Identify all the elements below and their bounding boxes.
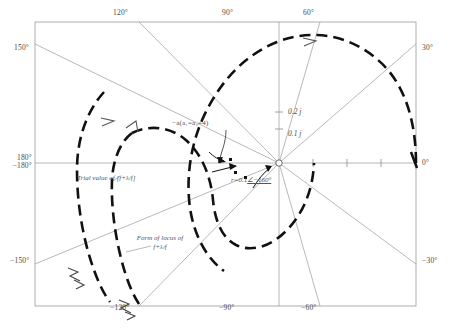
angle-label-minus-180: −180° — [2, 162, 32, 170]
minus-a-annotation: −a(a₁=a₂=4) — [172, 119, 208, 127]
locus-form-line2: f+λ/f — [118, 243, 202, 252]
angle-label-minus-60: −60° — [301, 303, 317, 312]
trial-value-annotation: Trial value of [f+λ/f] — [77, 174, 136, 182]
locus-form-line1: Form of locus of — [118, 234, 202, 243]
inner-left-branch — [112, 133, 139, 304]
inner-locus-curve — [132, 128, 314, 248]
angle-label-90: 90° — [222, 8, 233, 17]
polar-locus-figure: 120° 90° 60° 30° 0° −30° 150° −150° 180°… — [0, 0, 466, 328]
angle-label-minus-90: −90° — [219, 303, 235, 312]
angle-label-150: 150° — [14, 43, 29, 52]
r-value-annotation: r=0.1∠−160° — [231, 176, 271, 184]
locus-form-annotation: Form of locus of f+λ/f — [118, 234, 202, 252]
angle-label-30: 30° — [422, 43, 433, 52]
radial-value-0p2j: 0.2 j — [288, 107, 301, 116]
angle-label-minus-30: −30° — [422, 256, 438, 265]
angle-label-minus-150: −150° — [10, 256, 29, 265]
left-outer-branch — [77, 92, 110, 302]
angle-label-0: 0° — [422, 158, 429, 167]
r-value-angle: ∠−160° — [247, 176, 271, 184]
outer-locus-arrowheads — [101, 38, 316, 126]
outer-locus-curve — [189, 35, 416, 271]
diagram-canvas — [0, 0, 466, 328]
angle-label-180-group: 180° −180° — [2, 154, 32, 171]
direction-arrow-markers — [68, 268, 135, 320]
r-value-magnitude: r=0.1 — [231, 176, 247, 184]
origin-marker — [276, 160, 282, 166]
angle-label-60: 60° — [303, 8, 314, 17]
angle-label-minus-120: −120° — [110, 303, 129, 312]
radial-value-0p1j: 0.1 j — [288, 129, 301, 138]
angle-label-120: 120° — [113, 8, 128, 17]
